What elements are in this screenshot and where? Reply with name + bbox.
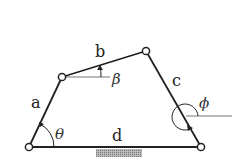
label-c: c (172, 71, 181, 90)
label-b: b (95, 42, 105, 61)
label-theta: θ (55, 125, 64, 143)
phi-arc (172, 104, 198, 130)
joint-ground-left (25, 143, 32, 150)
joint-ground-right (197, 143, 204, 150)
label-phi: ϕ (199, 94, 209, 112)
joint-bc (142, 47, 149, 54)
label-d: d (112, 126, 122, 145)
label-a: a (31, 93, 41, 112)
label-beta: β (111, 70, 121, 88)
joint-ab (58, 73, 65, 80)
four-bar-linkage-diagram: a b c d θ β ϕ (0, 0, 252, 164)
ground-hatch (96, 149, 142, 157)
theta-arc (40, 124, 54, 147)
link-c (146, 51, 201, 147)
